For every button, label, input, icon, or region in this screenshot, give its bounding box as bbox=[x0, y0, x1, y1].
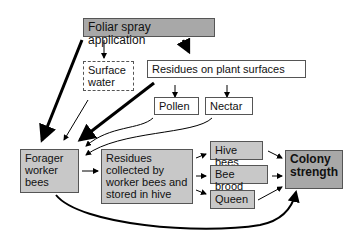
arrow-foliar-forager bbox=[42, 40, 82, 140]
node-nectar: Nectar bbox=[205, 97, 253, 115]
node-bee-brood: Bee brood bbox=[210, 165, 268, 184]
arrow-queen-colony bbox=[258, 187, 282, 200]
node-foliar-spray: Foliar spray application bbox=[83, 18, 215, 37]
arrow-pollen-forager bbox=[86, 118, 153, 146]
node-forager-bees: Forager worker bees bbox=[20, 149, 79, 193]
node-pollen: Pollen bbox=[154, 97, 199, 115]
node-residues-plant: Residues on plant surfaces bbox=[147, 60, 306, 78]
arrow-surface-forager bbox=[64, 100, 88, 140]
node-residues-hive: Residues collected by worker bees and st… bbox=[101, 149, 193, 204]
node-queen: Queen bbox=[210, 190, 255, 209]
arrow-hivebees-colony bbox=[268, 151, 282, 158]
node-hive-bees: Hive bees bbox=[210, 141, 263, 160]
arrow-residues-forager bbox=[80, 83, 154, 140]
node-colony-strength: Colony strength bbox=[285, 150, 343, 189]
node-surface-water: Surface water bbox=[83, 61, 134, 91]
arrow-foliar-residues bbox=[183, 40, 189, 52]
arrow-hive-queen bbox=[196, 190, 206, 194]
arrow-hive-hivebees bbox=[196, 154, 206, 158]
